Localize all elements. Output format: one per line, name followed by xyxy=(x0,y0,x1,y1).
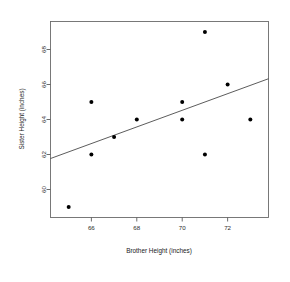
x-axis-title: Brother Height (inches) xyxy=(126,247,192,255)
y-tick-label: 68 xyxy=(40,46,47,53)
scatter-plot-figure: 6062646668 66687072 Brother Height (inch… xyxy=(0,0,290,282)
data-point xyxy=(135,118,139,122)
y-axis-title: Sister Height (inches) xyxy=(18,88,26,149)
data-point xyxy=(203,30,207,34)
data-point xyxy=(112,135,116,139)
figure-background xyxy=(0,0,290,282)
x-tick-label: 68 xyxy=(133,224,140,231)
y-tick-label: 64 xyxy=(40,116,47,123)
plot-canvas: 6062646668 66687072 Brother Height (inch… xyxy=(0,0,290,282)
y-tick-label: 60 xyxy=(40,186,47,193)
data-point xyxy=(89,153,93,157)
data-point xyxy=(226,83,230,87)
x-tick-label: 66 xyxy=(88,224,95,231)
y-tick-label: 62 xyxy=(40,151,47,158)
x-tick-label: 72 xyxy=(224,224,231,231)
x-tick-label: 70 xyxy=(179,224,186,231)
data-point xyxy=(89,100,93,104)
y-tick-label: 66 xyxy=(40,81,47,88)
data-point xyxy=(203,153,207,157)
data-point xyxy=(67,205,71,209)
data-point xyxy=(180,100,184,104)
data-point xyxy=(248,118,252,122)
data-point xyxy=(180,118,184,122)
